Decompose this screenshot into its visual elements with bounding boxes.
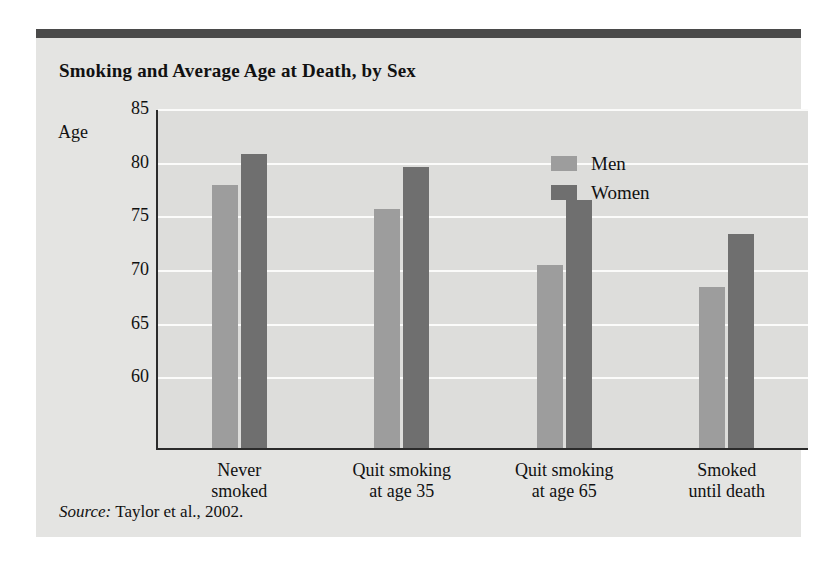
plot-area: 606570758085 NeversmokedQuit smokingat a…	[158, 110, 808, 448]
bar-men	[374, 209, 400, 448]
gridline: 85	[158, 109, 808, 111]
source-text: Taylor et al., 2002.	[111, 502, 243, 521]
y-tick-label: 65	[131, 313, 149, 334]
bar-women	[403, 167, 429, 448]
chart-title: Smoking and Average Age at Death, by Sex	[59, 60, 416, 82]
x-tick-label: Quit smokingat age 65	[515, 460, 614, 502]
figure-body: Smoking and Average Age at Death, by Sex…	[36, 38, 801, 537]
y-tick-label: 70	[131, 259, 149, 280]
legend: Men Women	[551, 149, 650, 207]
legend-item-men: Men	[551, 149, 650, 178]
bar-women	[566, 200, 592, 448]
y-tick-label: 80	[131, 152, 149, 173]
y-axis-title: Age	[58, 122, 88, 143]
y-axis-line	[156, 110, 158, 448]
source-prefix: Source:	[59, 502, 111, 521]
figure-top-band	[36, 29, 801, 38]
figure-panel: Smoking and Average Age at Death, by Sex…	[36, 29, 801, 537]
bar-men	[699, 287, 725, 448]
legend-swatch-men-icon	[551, 156, 577, 171]
y-tick-label: 75	[131, 205, 149, 226]
bar-men	[212, 185, 238, 448]
legend-label-women: Women	[591, 182, 650, 204]
bar-men	[537, 265, 563, 448]
legend-label-men: Men	[591, 153, 626, 175]
source-note: Source: Taylor et al., 2002.	[59, 502, 243, 522]
x-tick-label: Smokeduntil death	[689, 460, 765, 502]
y-tick-label: 60	[131, 366, 149, 387]
x-axis-line	[156, 448, 808, 450]
legend-swatch-women-icon	[551, 185, 577, 200]
x-tick-label: Neversmoked	[211, 460, 267, 502]
y-tick-label: 85	[131, 98, 149, 119]
legend-item-women: Women	[551, 178, 650, 207]
bar-women	[728, 234, 754, 448]
x-tick-label: Quit smokingat age 35	[352, 460, 451, 502]
bar-women	[241, 154, 267, 448]
